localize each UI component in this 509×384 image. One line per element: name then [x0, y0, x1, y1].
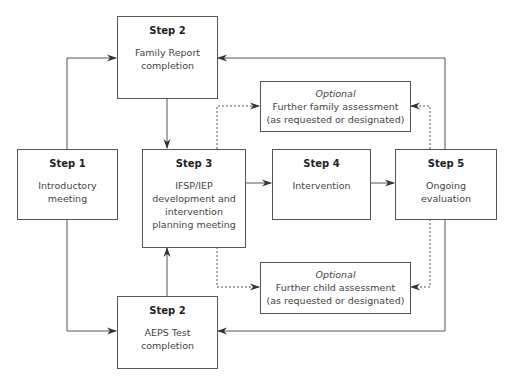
desc-line: Further family assessment	[261, 100, 410, 113]
desc-line: planning meeting	[152, 219, 236, 230]
step-label: Step 4	[273, 157, 370, 170]
desc-line: IFSP/IEP	[175, 180, 213, 191]
desc-line: completion	[141, 340, 194, 351]
step-description: Ongoing evaluation	[396, 179, 496, 205]
step2-aeps-test-box: Step 2 AEPS Test completion	[117, 296, 218, 369]
step-description: IFSP/IEP development and intervention pl…	[143, 179, 245, 231]
step5-ongoing-evaluation-box: Step 5 Ongoing evaluation	[395, 149, 497, 220]
step-description: AEPS Test completion	[118, 326, 217, 352]
step4-intervention-box: Step 4 Intervention	[272, 149, 371, 220]
optional-child-assessment-box: Optional Further child assessment (as re…	[260, 262, 411, 314]
step-description: Intervention	[273, 179, 370, 192]
step1-introductory-meeting-box: Step 1 Introductory meeting	[17, 149, 118, 220]
desc-line: (as requested or designated)	[261, 113, 410, 126]
step-label: Step 5	[396, 157, 496, 170]
step-label: Step 3	[143, 157, 245, 170]
desc-line: Family Report	[135, 47, 200, 58]
step2-family-report-box: Step 2 Family Report completion	[117, 16, 218, 99]
desc-line: Intervention	[293, 180, 351, 191]
step-description: Introductory meeting	[18, 179, 117, 205]
step-label: Step 1	[18, 157, 117, 170]
desc-line: meeting	[48, 193, 87, 204]
desc-line: completion	[141, 60, 194, 71]
optional-label: Optional	[261, 87, 410, 100]
desc-line: Introductory	[38, 180, 96, 191]
step-label: Step 2	[118, 24, 217, 37]
desc-line: evaluation	[421, 193, 471, 204]
step-description: Family Report completion	[118, 46, 217, 72]
desc-line: (as requested or designated)	[261, 294, 410, 307]
desc-line: Further child assessment	[261, 281, 410, 294]
step3-ifsp-iep-box: Step 3 IFSP/IEP development and interven…	[142, 149, 246, 248]
desc-line: intervention	[165, 206, 223, 217]
step-label: Step 2	[118, 304, 217, 317]
desc-line: development and	[152, 193, 236, 204]
desc-line: AEPS Test	[145, 327, 191, 338]
optional-family-assessment-box: Optional Further family assessment (as r…	[260, 81, 411, 132]
desc-line: Ongoing	[426, 180, 466, 191]
optional-label: Optional	[261, 268, 410, 281]
